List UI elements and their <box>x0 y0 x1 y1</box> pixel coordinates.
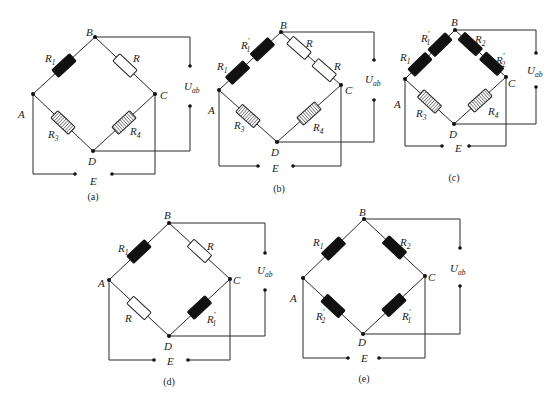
supply-label-e: E <box>166 355 174 367</box>
resistor-label: R1 <box>312 236 323 251</box>
node-label-C: C <box>428 271 436 283</box>
arm-wire-AB <box>219 32 281 90</box>
diagram-caption: (a) <box>87 191 98 203</box>
resistor-label: R4 <box>129 125 141 140</box>
terminal-dot-icon <box>458 246 462 250</box>
terminal-dot-icon <box>152 358 156 362</box>
node-dot-B <box>167 221 171 225</box>
diagram-caption: (b) <box>273 183 285 195</box>
resistor-label: R′1 <box>401 308 411 325</box>
resistor-label: R1 <box>399 51 410 66</box>
node-dot-B <box>453 28 457 32</box>
diagrams-root: R1RR3R4EUabABCD(a)R1R′1RRR3R4EUabABCD(b)… <box>17 16 543 388</box>
strain-gauge-resistor-icon <box>321 237 345 261</box>
node-label-D: D <box>448 128 457 140</box>
terminal-dot-icon <box>534 85 538 89</box>
terminal-dot-icon <box>534 51 538 55</box>
resistor-label: R <box>305 37 313 49</box>
terminal-dot-icon <box>188 64 192 68</box>
output-wire-top <box>169 223 265 253</box>
resistor-label: R′1 <box>206 311 216 328</box>
node-label-C: C <box>160 89 168 101</box>
node-label-B: B <box>86 26 93 38</box>
diagram-caption: (c) <box>448 172 459 184</box>
output-wire-top <box>95 37 190 66</box>
node-label-A: A <box>393 98 401 110</box>
strain-gauge-resistor-icon <box>321 294 345 318</box>
resistor-label: R1 <box>44 52 55 67</box>
terminal-dot-icon <box>458 284 462 288</box>
node-dot-A <box>403 77 407 81</box>
resistor-label: R′2 <box>315 308 325 325</box>
output-voltage-label: Uab <box>527 64 543 79</box>
strain-gauge-resistor-icon <box>250 38 274 62</box>
terminal-dot-icon <box>346 356 350 360</box>
output-wire-bottom <box>277 100 374 142</box>
node-dot-D <box>275 140 279 144</box>
node-dot-C <box>153 92 157 96</box>
supply-label-e: E <box>271 162 279 174</box>
bridge-diagram-a: R1RR3R4EUabABCD(a) <box>17 26 200 203</box>
bridge-circuits-figure: R1RR3R4EUabABCD(a)R1R′1RRR3R4EUabABCD(b)… <box>0 0 558 406</box>
node-label-A: A <box>207 104 215 116</box>
terminal-dot-icon <box>110 172 114 176</box>
bridge-diagram-d: R1RRR′1EUabABCD(d) <box>97 209 273 388</box>
output-wire-bottom <box>93 106 190 151</box>
output-voltage-label: Uab <box>450 262 466 277</box>
resistor-label: R1 <box>216 60 227 75</box>
output-wire-bottom <box>363 286 460 334</box>
node-label-B: B <box>164 209 171 221</box>
resistor-label: R3 <box>233 119 245 134</box>
terminal-dot-icon <box>377 356 381 360</box>
node-label-A: A <box>289 292 297 304</box>
terminal-dot-icon <box>372 58 376 62</box>
resistor-label: R′1 <box>240 37 250 54</box>
node-label-C: C <box>345 84 353 96</box>
terminal-dot-icon <box>291 164 295 168</box>
diagram-caption: (e) <box>358 373 369 385</box>
supply-label-e: E <box>454 142 462 154</box>
strain-gauge-resistor-icon <box>127 240 151 264</box>
node-label-B: B <box>451 16 458 28</box>
resistor-label: R <box>206 240 214 252</box>
terminal-dot-icon <box>263 251 267 255</box>
node-dot-A <box>301 276 305 280</box>
node-label-C: C <box>233 274 241 286</box>
node-label-D: D <box>87 155 96 167</box>
resistor-label: R3 <box>415 107 427 122</box>
node-label-D: D <box>163 340 172 352</box>
node-label-D: D <box>357 336 366 348</box>
fixed-resistor-icon <box>312 58 337 81</box>
resistor-label: R4 <box>312 121 324 136</box>
terminal-dot-icon <box>186 358 190 362</box>
resistor-label: R <box>124 312 132 324</box>
node-dot-C <box>423 274 427 278</box>
resistor-label: R <box>132 52 140 64</box>
node-dot-A <box>107 278 111 282</box>
diagram-caption: (d) <box>163 376 175 388</box>
strain-gauge-resistor-icon <box>225 61 249 85</box>
resistor-label: R <box>333 60 341 72</box>
terminal-dot-icon <box>188 104 192 108</box>
node-label-B: B <box>359 206 366 218</box>
node-dot-D <box>91 149 95 153</box>
output-wire-top <box>364 219 460 248</box>
resistor-label: R3 <box>47 128 59 143</box>
output-voltage-label: Uab <box>365 73 381 88</box>
node-dot-C <box>228 277 232 281</box>
terminal-dot-icon <box>372 98 376 102</box>
strain-gauge-resistor-icon <box>408 52 432 76</box>
node-dot-C <box>339 83 343 87</box>
node-dot-A <box>31 92 35 96</box>
node-label-C: C <box>508 77 516 89</box>
terminal-dot-icon <box>467 144 471 148</box>
terminal-dot-icon <box>263 288 267 292</box>
bridge-diagram-c: R1R′1R2R′2R3R4EUabABCD(c) <box>393 16 543 184</box>
node-dot-D <box>167 334 171 338</box>
terminal-dot-icon <box>256 164 260 168</box>
node-label-A: A <box>17 108 25 120</box>
bridge-diagram-e: R1R2R′2R′1EUabABCD(e) <box>289 206 466 385</box>
resistor-label: R1 <box>117 242 128 257</box>
node-dot-D <box>452 122 456 126</box>
excitation-wire-left <box>303 278 348 358</box>
